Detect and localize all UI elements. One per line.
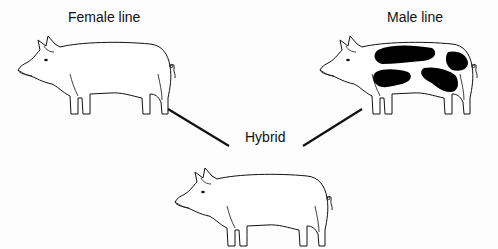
- pig-breeding-diagram: Female line Male line Hybrid: [0, 0, 498, 249]
- diagram-canvas: [0, 0, 498, 249]
- hybrid-pig-icon: [175, 168, 332, 246]
- male-pig-icon: [320, 36, 477, 114]
- male-to-hybrid-line: [303, 109, 362, 146]
- hybrid-label: Hybrid: [245, 129, 285, 145]
- male-line-label: Male line: [387, 9, 443, 25]
- female-line-label: Female line: [68, 9, 140, 25]
- female-pig-icon: [18, 36, 175, 114]
- female-to-hybrid-line: [168, 109, 229, 146]
